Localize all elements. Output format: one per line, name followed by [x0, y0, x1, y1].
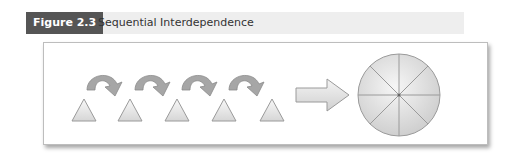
right-arrow-icon: [296, 79, 349, 111]
triangle-icon: [118, 99, 142, 121]
curved-arrow-icon: [229, 75, 264, 96]
triangle-icon: [260, 99, 284, 121]
triangle-icon: [165, 99, 189, 121]
triangle-icon: [212, 99, 236, 121]
triangle-icon: [72, 99, 96, 121]
curved-arrow-icon: [87, 75, 122, 96]
segmented-circle-icon: [358, 54, 440, 136]
curved-arrow-icon: [182, 75, 217, 96]
curved-arrow-icon: [135, 75, 170, 96]
sequential-interdependence-diagram: [0, 0, 510, 163]
